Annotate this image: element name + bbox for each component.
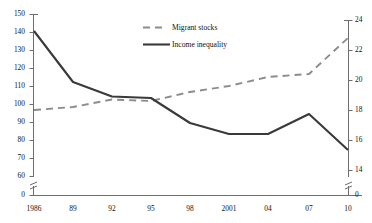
x-axis-tick-label: 89 <box>53 205 93 213</box>
y-axis-tick-label: 150 <box>3 10 25 18</box>
x-axis-tick-label: 10 <box>328 205 368 213</box>
right-axis-ticks <box>349 21 353 196</box>
x-axis-tick-label: 07 <box>289 205 329 213</box>
y-axis-tick-label: 80 <box>3 136 25 144</box>
x-axis-tick-label: 95 <box>131 205 171 213</box>
y-axis-tick-label: 120 <box>3 64 25 72</box>
y2-axis-tick-label: 16 <box>355 136 372 144</box>
y2-axis-tick-label: 22 <box>355 46 372 54</box>
chart-canvas <box>0 0 372 223</box>
y2-axis-tick-label: 18 <box>355 106 372 114</box>
legend-label-migrant-stocks: Migrant stocks <box>172 23 217 32</box>
x-axis-tick-label: 98 <box>170 205 210 213</box>
left-axis-break-icon <box>30 182 37 189</box>
y-axis-tick-label: 0 <box>3 191 25 199</box>
y-axis-tick-label: 140 <box>3 28 25 36</box>
y-axis-tick-label: 60 <box>3 172 25 180</box>
x-axis-tick-label: 1986 <box>14 205 54 213</box>
y-axis-tick-label: 130 <box>3 46 25 54</box>
y2-axis-tick-label: 0 <box>355 191 372 199</box>
x-axis-tick-label: 2001 <box>209 205 249 213</box>
y2-axis-tick-label: 14 <box>355 166 372 174</box>
x-axis-tick-label: 92 <box>92 205 132 213</box>
y-axis-tick-label: 70 <box>3 154 25 162</box>
y-axis-tick-label: 110 <box>3 82 25 90</box>
y2-axis-tick-label: 20 <box>355 76 372 84</box>
chart-figure: 150 140 130 120 110 100 90 80 70 60 0 24… <box>0 0 372 223</box>
x-axis-tick-label: 04 <box>248 205 288 213</box>
y2-axis-tick-label: 24 <box>355 16 372 24</box>
legend-label-income-inequality: Income inequality <box>172 40 227 49</box>
y-axis-tick-label: 90 <box>3 118 25 126</box>
left-axis-ticks <box>30 15 34 196</box>
right-axis-break-icon <box>345 182 352 189</box>
y-axis-tick-label: 100 <box>3 100 25 108</box>
